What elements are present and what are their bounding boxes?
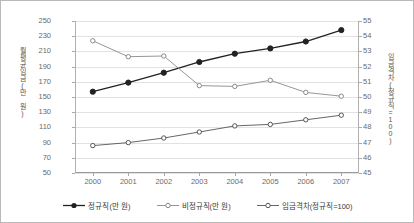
data-point — [91, 39, 95, 43]
series-1 — [90, 28, 344, 95]
data-point — [268, 78, 272, 82]
chart-legend: 정규직(만 원)비정규직(만 원)임금격차(정규직=100) — [1, 197, 414, 213]
data-point — [339, 94, 343, 98]
legend-item[interactable]: 비정규직(만 원) — [157, 200, 231, 211]
data-point — [233, 124, 237, 128]
data-point — [232, 51, 237, 56]
legend-marker-icon — [63, 201, 85, 210]
legend-marker-icon — [157, 201, 179, 210]
data-point — [339, 28, 344, 33]
series-3 — [91, 113, 344, 148]
data-point — [161, 70, 166, 75]
data-point — [126, 55, 130, 59]
data-point — [268, 46, 273, 51]
series-line — [93, 41, 341, 96]
data-point — [162, 136, 166, 140]
data-point — [126, 140, 130, 144]
data-point — [304, 118, 308, 122]
data-point — [91, 143, 95, 147]
chart-container: 250230210190170150130110907050 555453525… — [0, 0, 414, 223]
data-point — [233, 84, 237, 88]
legend-label: 정규직(만 원) — [88, 200, 130, 211]
data-point — [126, 80, 131, 85]
legend-item[interactable]: 정규직(만 원) — [63, 200, 130, 211]
data-point — [197, 83, 201, 87]
chart-series-layer — [1, 1, 414, 223]
series-2 — [91, 39, 344, 99]
data-point — [197, 59, 202, 64]
legend-label: 임금격차(정규직=100) — [282, 200, 353, 211]
data-point — [197, 130, 201, 134]
data-point — [90, 89, 95, 94]
data-point — [339, 113, 343, 117]
legend-item[interactable]: 임금격차(정규직=100) — [257, 200, 353, 211]
data-point — [268, 122, 272, 126]
legend-label: 비정규직(만 원) — [182, 200, 231, 211]
data-point — [303, 39, 308, 44]
data-point — [304, 90, 308, 94]
data-point — [162, 54, 166, 58]
legend-marker-icon — [257, 201, 279, 210]
